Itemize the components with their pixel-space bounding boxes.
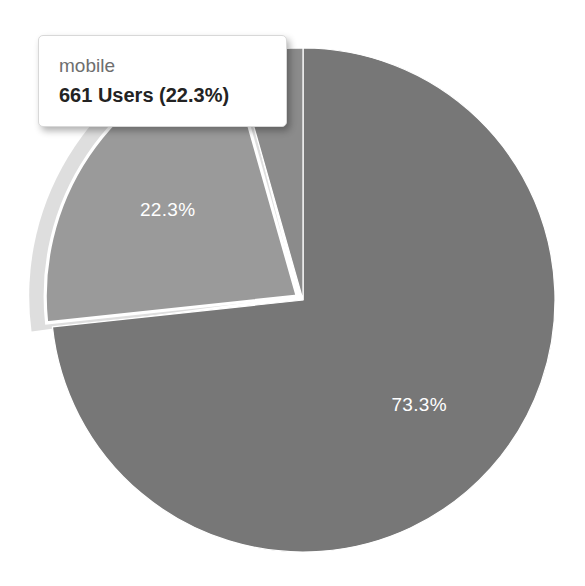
tooltip-series-name: mobile	[59, 54, 270, 78]
slice-label-desktop: 73.3%	[392, 394, 447, 415]
chart-tooltip: mobile 661 Users (22.3%)	[38, 35, 287, 127]
pie-chart-container: 73.3% 22.3% mobile 661 Users (22.3%)	[0, 0, 585, 586]
slice-label-mobile: 22.3%	[140, 199, 195, 220]
tooltip-value: 661 Users (22.3%)	[59, 82, 270, 108]
